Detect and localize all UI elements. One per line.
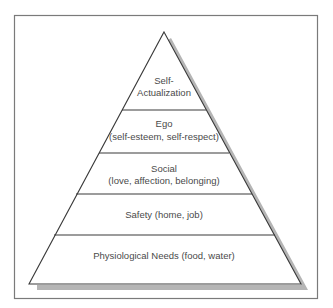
level-title: Self- [154, 75, 174, 86]
level-subtitle: (love, affection, belonging) [108, 175, 219, 186]
level-title: Safety (home, job) [125, 209, 203, 220]
level-safety: Safety (home, job) [125, 209, 203, 220]
level-subtitle: (self-esteem, self-respect) [109, 131, 219, 142]
level-title: Physiological Needs (food, water) [93, 250, 235, 261]
level-title: Ego [156, 118, 173, 129]
level-physiological: Physiological Needs (food, water) [93, 250, 235, 261]
level-title: Social [151, 163, 177, 174]
level-subtitle: Actualization [137, 87, 191, 98]
pyramid-diagram: Self- Actualization Ego (self-esteem, se… [0, 0, 333, 308]
